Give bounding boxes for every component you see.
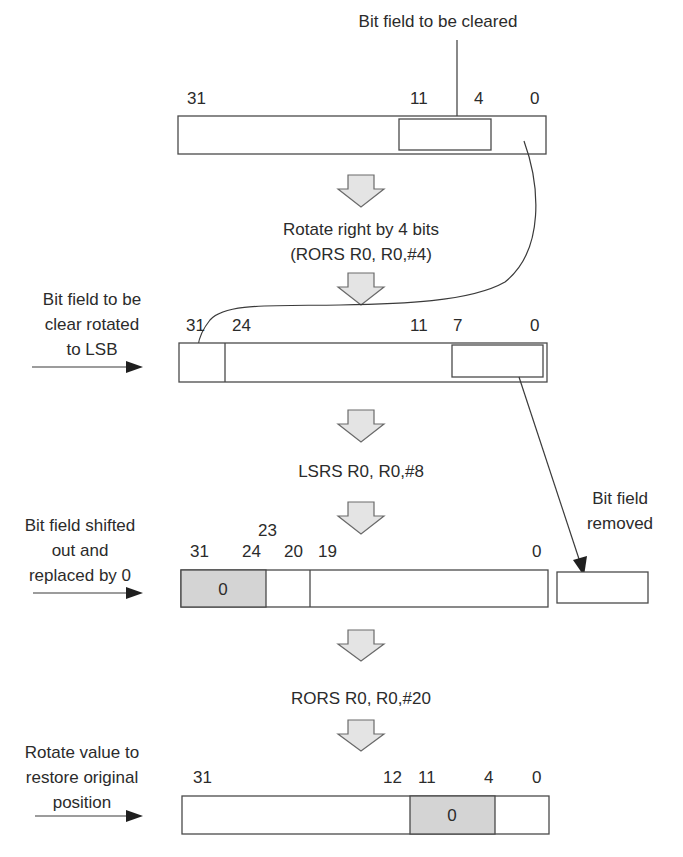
register-rotated [179,343,547,382]
operation-label-line-2: (RORS R0, R0,#4) [290,245,432,264]
bit-field-clear-diagram: Bit field to be cleared 31 11 4 0 Rotate… [0,0,683,857]
block-arrow-down-icon [338,630,384,661]
bit-label-11: 11 [418,768,436,787]
side-label-line-1: Rotate value to [25,743,139,762]
bit-label-31: 31 [190,542,209,561]
bit-label-24: 24 [232,316,251,335]
bit-label-31: 31 [186,316,205,335]
bit-label-31: 31 [187,89,206,108]
zero-value: 0 [218,580,227,599]
bit-label-12: 12 [383,768,402,787]
bit-label-0: 0 [530,89,539,108]
bit-label-20: 20 [284,542,303,561]
bit-label-31: 31 [193,768,212,787]
arrowhead-right-icon [126,361,143,373]
title-bit-field-to-be-cleared: Bit field to be cleared [359,12,518,31]
zero-value: 0 [447,806,456,825]
removed-label-line-1: Bit field [592,489,648,508]
operation-label: RORS R0, R0,#20 [291,689,431,708]
bit-label-4: 4 [474,89,483,108]
bit-label-7: 7 [453,316,462,335]
block-arrow-down-icon [338,273,384,305]
side-label-line-3: replaced by 0 [29,566,131,585]
side-label-line-3: position [53,793,112,812]
bit-label-11: 11 [410,89,428,108]
side-label-line-2: clear rotated [45,315,140,334]
block-arrow-down-icon [338,175,384,207]
removed-bit-field-box [557,572,648,603]
removed-pointer-line [519,377,580,562]
bit-label-23: 23 [258,521,277,540]
arrowhead-right-icon [126,810,143,822]
bit-label-4: 4 [484,768,493,787]
bit-label-19: 19 [318,542,337,561]
block-arrow-down-icon [338,410,384,442]
operation-label-line-1: Rotate right by 4 bits [283,220,439,239]
side-label-line-1: Bit field to be [43,290,141,309]
side-label-line-3: to LSB [66,340,117,359]
side-label-line-1: Bit field shifted [25,516,136,535]
side-label-line-2: restore original [26,768,138,787]
side-label-line-2: out and [52,541,109,560]
arrowhead-right-icon [126,587,143,599]
bit-label-24: 24 [242,542,261,561]
bit-label-0: 0 [530,316,539,335]
bit-label-11: 11 [410,316,428,335]
bit-label-0: 0 [532,768,541,787]
block-arrow-down-icon [338,502,384,534]
block-arrow-down-icon [338,720,384,751]
removed-label-line-2: removed [587,514,653,533]
operation-label: LSRS R0, R0,#8 [298,462,424,481]
bit-label-0: 0 [532,542,541,561]
